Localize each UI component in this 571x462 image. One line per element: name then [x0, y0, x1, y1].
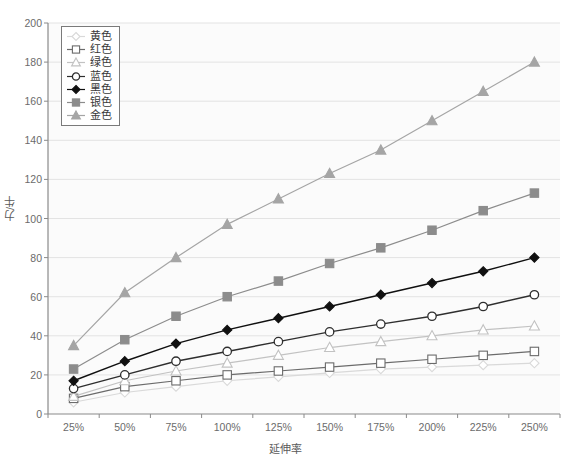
legend-marker-icon: [66, 70, 86, 83]
data-point-marker: [69, 365, 77, 373]
data-point-marker: [72, 33, 80, 41]
data-point-marker: [428, 355, 436, 363]
line-chart: 力/牛 延伸率 200180160140120100806040200 25%5…: [0, 0, 571, 462]
data-point-marker: [479, 351, 487, 359]
data-point-marker: [530, 189, 538, 197]
legend: 黄色红色绿色蓝色黑色银色金色: [61, 26, 120, 126]
data-point-marker: [72, 99, 79, 106]
data-point-marker: [223, 371, 231, 379]
data-point-marker: [223, 293, 231, 301]
data-point-marker: [325, 259, 333, 267]
legend-item[interactable]: 银色: [66, 96, 112, 109]
legend-label: 蓝色: [86, 70, 112, 83]
data-point-marker: [72, 85, 80, 93]
data-point-marker: [274, 367, 282, 375]
legend-item[interactable]: 黄色: [66, 30, 112, 43]
legend-label: 黄色: [86, 30, 112, 43]
legend-label: 黑色: [86, 83, 112, 96]
legend-marker-icon: [66, 30, 86, 43]
legend-item[interactable]: 黑色: [66, 83, 112, 96]
data-point-marker: [377, 359, 385, 367]
data-point-marker: [325, 328, 333, 336]
data-point-marker: [172, 357, 180, 365]
data-point-marker: [72, 46, 79, 53]
data-point-marker: [172, 312, 180, 320]
legend-label: 绿色: [86, 56, 112, 69]
data-point-marker: [377, 320, 385, 328]
data-point-marker: [530, 291, 538, 299]
data-point-marker: [72, 73, 79, 80]
data-point-marker: [479, 302, 487, 310]
data-point-marker: [121, 336, 129, 344]
legend-marker-icon: [66, 43, 86, 56]
legend-marker-icon: [66, 56, 86, 69]
data-point-marker: [121, 371, 129, 379]
data-point-marker: [479, 206, 487, 214]
data-point-marker: [377, 244, 385, 252]
data-point-marker: [274, 337, 282, 345]
legend-marker-icon: [66, 109, 86, 122]
data-point-marker: [223, 347, 231, 355]
data-point-marker: [325, 363, 333, 371]
data-point-marker: [428, 312, 436, 320]
data-point-marker: [428, 226, 436, 234]
legend-item[interactable]: 绿色: [66, 56, 112, 69]
legend-item[interactable]: 红色: [66, 43, 112, 56]
legend-item[interactable]: 蓝色: [66, 70, 112, 83]
data-point-marker: [172, 377, 180, 385]
legend-marker-icon: [66, 96, 86, 109]
legend-label: 红色: [86, 43, 112, 56]
data-point-marker: [274, 277, 282, 285]
legend-label: 金色: [86, 109, 112, 122]
legend-marker-icon: [66, 83, 86, 96]
legend-label: 银色: [86, 96, 112, 109]
legend-item[interactable]: 金色: [66, 109, 112, 122]
data-point-marker: [530, 347, 538, 355]
